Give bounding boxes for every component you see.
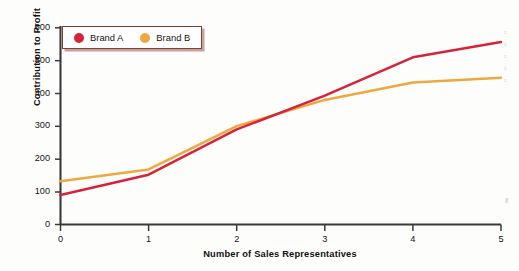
- edge-fragment-bottom: ‖: [505, 196, 518, 205]
- circle-marker-icon-brand-b: [140, 33, 150, 43]
- y-axis-title: Contribution to Profit: [32, 0, 42, 142]
- y-tick-label-0: 0: [22, 219, 50, 229]
- legend-entry-brand-a: Brand A: [74, 32, 123, 43]
- x-tick-label-2: 2: [227, 234, 247, 244]
- edge-fragment-1: ≡: [504, 30, 518, 35]
- series-line-brand-b: [61, 78, 502, 182]
- circle-marker-icon-brand-a: [74, 33, 84, 43]
- x-axis-title: Number of Sales Representatives: [60, 249, 500, 259]
- x-tick-label-5: 5: [491, 234, 511, 244]
- x-tick-label-0: 0: [51, 234, 71, 244]
- x-tick-label-1: 1: [139, 234, 159, 244]
- y-tick-label-200: 200: [22, 153, 50, 163]
- line-chart-figure: 600 500 400 300 200 100 0 0 1 2 3 4 5 Co…: [0, 0, 519, 271]
- legend-label-brand-b: Brand B: [156, 32, 190, 43]
- chart-legend: Brand A Brand B: [62, 26, 202, 49]
- legend-label-brand-a: Brand A: [90, 32, 123, 43]
- y-tick-label-100: 100: [22, 186, 50, 196]
- edge-fragment-4: ≡: [504, 66, 518, 71]
- edge-fragment-2: ≡: [504, 42, 518, 47]
- scan-edge-artifacts: ≡ ≡ ≡ ≡ ≡: [504, 30, 518, 83]
- x-tick-label-4: 4: [403, 234, 423, 244]
- edge-fragment-3: ≡: [504, 54, 518, 59]
- legend-entry-brand-b: Brand B: [140, 32, 190, 43]
- edge-fragment-5: ≡: [504, 78, 518, 83]
- x-tick-label-3: 3: [315, 234, 335, 244]
